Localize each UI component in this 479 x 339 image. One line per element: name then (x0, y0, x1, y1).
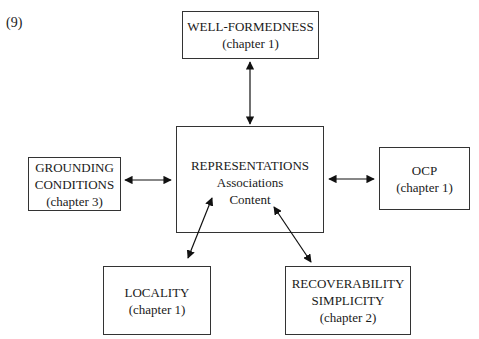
arrow-recoverability (274, 207, 311, 262)
arrows-layer (0, 0, 479, 339)
arrow-locality (188, 198, 212, 258)
